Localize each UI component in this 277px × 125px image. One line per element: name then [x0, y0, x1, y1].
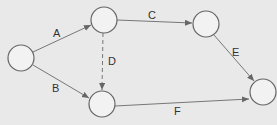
node-4: [193, 11, 219, 37]
edge-b: [33, 65, 89, 98]
edge-d: [102, 33, 103, 90]
edge-label-d: D: [108, 55, 116, 67]
edge-e: [214, 35, 254, 81]
edge-label-c: C: [148, 9, 156, 21]
edge-a: [33, 25, 91, 52]
edge-label-e: E: [232, 46, 239, 58]
node-1: [8, 45, 34, 71]
edge-f: [115, 99, 249, 106]
edge-label-b: B: [52, 82, 59, 94]
node-3: [89, 91, 115, 117]
edge-label-a: A: [53, 27, 61, 39]
network-diagram: A B C D E F: [0, 0, 277, 125]
edge-label-f: F: [174, 105, 181, 117]
node-5: [250, 79, 276, 105]
node-2: [91, 7, 117, 33]
